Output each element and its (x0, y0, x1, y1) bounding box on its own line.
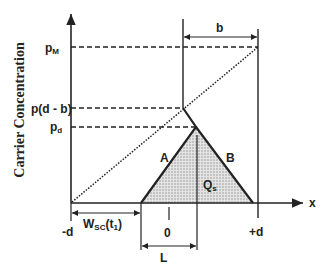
pdb-label: p(d - b) (31, 102, 72, 116)
region-b-label: B (226, 151, 235, 165)
neg-d-label: -d (62, 225, 73, 239)
pm-label: pM (45, 41, 59, 56)
b-label: b (216, 21, 223, 35)
zero-label: 0 (164, 226, 171, 240)
x-axis-label: x (309, 196, 316, 210)
y-axis-label: Carrier Concentration (12, 42, 27, 178)
wsc-label: WSC(t1) (83, 217, 122, 232)
l-label: L (160, 251, 167, 265)
pos-d-label: +d (249, 225, 263, 239)
pd-label: pd (50, 120, 62, 135)
carrier-concentration-diagram: Carrier Concentration x pM p(d - b) pd -… (0, 0, 328, 275)
region-a-label: A (160, 151, 169, 165)
